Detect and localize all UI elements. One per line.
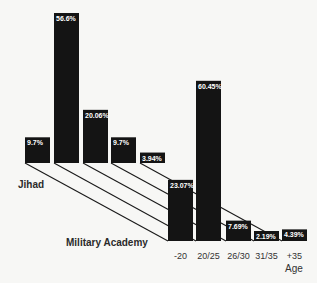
bar-value-label: 7.69% bbox=[228, 223, 249, 230]
x-axis-label: Age bbox=[285, 263, 303, 274]
bar-value-label: 4.39% bbox=[284, 231, 305, 238]
jihad-row-label: Jihad bbox=[18, 179, 44, 190]
bar-value-label: 2.19% bbox=[256, 233, 277, 240]
bar-military-20 bbox=[168, 180, 193, 241]
x-tick-label: 20/25 bbox=[197, 251, 220, 261]
bar-value-label: 60.45% bbox=[198, 83, 223, 90]
bar-value-label: 9.7% bbox=[113, 139, 130, 146]
military-academy-row-label: Military Academy bbox=[66, 237, 148, 248]
bar-jihad-2025 bbox=[54, 13, 79, 163]
x-tick-label: -20 bbox=[174, 251, 187, 261]
x-tick-label: 26/30 bbox=[227, 251, 250, 261]
bar-value-label: 9.7% bbox=[27, 139, 44, 146]
bar-value-label: 20.06% bbox=[85, 112, 110, 119]
jihad-bar-row: 9.7%56.6%20.06%9.7%3.94% bbox=[25, 13, 165, 163]
x-axis-ticks: -2020/2526/3031/35+35 bbox=[174, 251, 302, 261]
connector-line bbox=[25, 163, 168, 241]
bar-value-label: 56.6% bbox=[56, 15, 77, 22]
x-tick-label: +35 bbox=[287, 251, 302, 261]
x-tick-label: 31/35 bbox=[255, 251, 278, 261]
bar-military-2025 bbox=[196, 81, 221, 241]
bar-value-label: 23.07% bbox=[170, 182, 195, 189]
bar-value-label: 3.94% bbox=[142, 155, 163, 162]
age-distribution-chart: 9.7%56.6%20.06%9.7%3.94% 23.07%60.45%7.6… bbox=[0, 0, 317, 283]
